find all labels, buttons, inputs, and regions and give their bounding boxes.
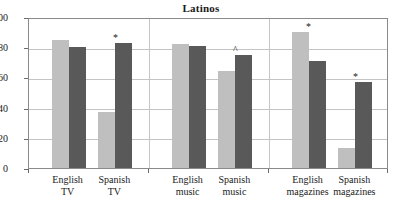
y-tick-label-100: 100 <box>0 13 8 23</box>
x-axis-label-line1: English <box>292 174 323 185</box>
annotation-marker-spanish-magazines: * <box>349 72 361 82</box>
annotation-marker-english-magazines: * <box>303 22 315 32</box>
bar-spanish-magazines-light <box>338 148 355 168</box>
x-axis-label-line1: English <box>172 174 203 185</box>
x-axis-label-spanish-music: Spanishmusic <box>199 174 269 198</box>
x-panel-tick-2 <box>268 169 269 173</box>
x-axis-label-line1: Spanish <box>219 174 251 185</box>
bar-english-magazines-dark <box>309 61 326 168</box>
x-axis-label-spanish-tv: SpanishTV <box>79 174 149 198</box>
x-axis-label-line2: music <box>199 186 269 198</box>
y-tick-label-0: 0 <box>0 164 8 174</box>
x-axis-label-line1: Spanish <box>99 174 131 185</box>
x-panel-tick-1 <box>148 169 149 173</box>
bar-english-tv-dark <box>69 47 86 168</box>
bar-spanish-music-dark <box>235 55 252 168</box>
bar-english-music-dark <box>189 46 206 168</box>
x-panel-tick-3 <box>387 169 388 173</box>
panel-separator-2 <box>269 19 270 168</box>
x-axis-label-line2: TV <box>79 186 149 198</box>
bar-spanish-tv-light <box>98 112 115 168</box>
bar-english-magazines-light <box>292 32 309 168</box>
x-axis-label-spanish-magazines: Spanishmagazines <box>319 174 389 198</box>
y-tick-label-40: 40 <box>0 104 8 114</box>
panel-separator-1 <box>149 19 150 168</box>
annotation-marker-spanish-tv: * <box>109 33 121 43</box>
bar-spanish-magazines-dark <box>355 82 372 168</box>
bar-spanish-tv-dark <box>115 43 132 168</box>
chart-title: Latinos <box>0 2 402 14</box>
y-tick-label-80: 80 <box>0 43 8 53</box>
x-axis-label-line1: English <box>52 174 83 185</box>
x-panel-tick-0 <box>28 169 29 173</box>
bar-english-music-light <box>172 44 189 168</box>
plot-area: *^** <box>28 18 388 169</box>
bar-chart: Latinos 020406080100 *^** EnglishTVSpani… <box>0 0 402 215</box>
x-axis-label-line2: magazines <box>319 186 389 198</box>
y-tick-label-20: 20 <box>0 134 8 144</box>
y-tick-label-60: 60 <box>0 73 8 83</box>
x-axis-label-line1: Spanish <box>339 174 371 185</box>
annotation-marker-spanish-music: ^ <box>229 45 241 55</box>
bar-spanish-music-light <box>218 71 235 168</box>
bar-english-tv-light <box>52 40 69 168</box>
